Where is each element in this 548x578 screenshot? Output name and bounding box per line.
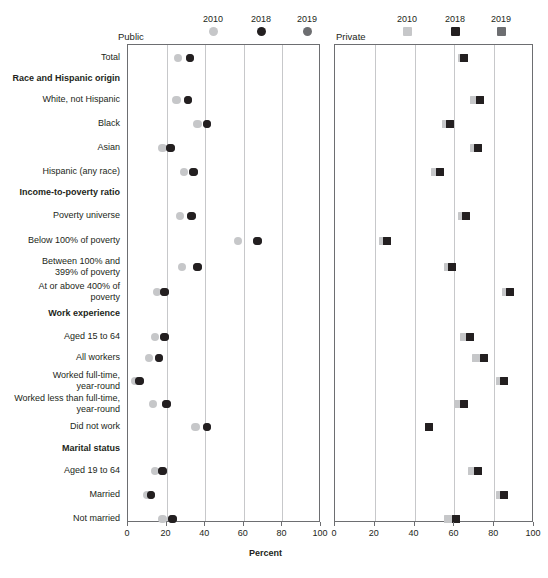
gridline [205, 45, 206, 521]
legend-item-public-2019: 2019 [292, 14, 322, 36]
data-point [444, 515, 452, 523]
data-point [474, 144, 482, 152]
data-point [151, 333, 160, 342]
data-point [193, 263, 202, 272]
gridline [244, 45, 245, 521]
legend-marker-circle-2018-icon [257, 27, 266, 36]
data-point [466, 333, 474, 341]
data-point [172, 96, 181, 105]
data-point [135, 377, 144, 386]
gridline [415, 45, 416, 521]
axis-tick [281, 522, 282, 526]
legend-year-label: 2019 [292, 14, 322, 25]
data-point [460, 54, 468, 62]
row-label: Aged 19 to 64 [0, 465, 120, 476]
data-point [436, 168, 444, 176]
row-label: Hispanic (any race) [0, 166, 120, 177]
axis-tick-label: 80 [480, 528, 506, 538]
data-point [234, 237, 243, 246]
data-point [155, 354, 164, 363]
legend-item-private-2010: 2010 [392, 14, 422, 36]
data-point [500, 377, 508, 385]
legend-year-label: 2018 [440, 14, 470, 25]
plot-panel-private [334, 44, 533, 522]
gridline [454, 45, 455, 521]
row-label: At or above 400% of poverty [0, 281, 120, 302]
axis-tick [493, 522, 494, 526]
axis-tick [334, 522, 335, 526]
axis-tick-label: 20 [361, 528, 387, 538]
data-point [180, 168, 189, 177]
data-point [191, 423, 200, 432]
legend-year-label: 2010 [392, 14, 422, 25]
legend-marker-square-2018-icon [451, 27, 460, 36]
data-point [460, 400, 468, 408]
legend-public: Public 2010 2018 2019 [60, 8, 310, 44]
axis-tick [204, 522, 205, 526]
panel-label-public: Public [118, 31, 144, 42]
data-point [166, 144, 175, 153]
axis-tick [533, 522, 534, 526]
data-point [500, 491, 508, 499]
data-point [506, 288, 514, 296]
legend-item-private-2018: 2018 [440, 14, 470, 36]
legend-item-private-2019: 2019 [486, 14, 516, 36]
axis-tick-label: 0 [114, 528, 140, 538]
data-point [446, 120, 454, 128]
row-group-header: Race and Hispanic origin [0, 73, 120, 84]
panel-label-private: Private [336, 31, 366, 42]
data-point [462, 212, 470, 220]
axis-tick-label: 0 [321, 528, 347, 538]
row-label: Worked less than full-time, year-round [0, 393, 120, 414]
row-group-header: Income-to-poverty ratio [0, 187, 120, 198]
plot-panel-public [127, 44, 320, 522]
legend-year-label: 2019 [486, 14, 516, 25]
legend-marker-circle-2019-icon [303, 27, 312, 36]
data-point [145, 354, 154, 363]
data-point [448, 263, 456, 271]
row-label: Asian [0, 142, 120, 153]
row-label: White, not Hispanic [0, 94, 120, 105]
legend-item-public-2010: 2010 [198, 14, 228, 36]
axis-tick [243, 522, 244, 526]
data-point [480, 354, 488, 362]
chart-root: Public 2010 2018 2019 Private 2010 2018 … [0, 0, 548, 578]
axis-tick-label: 100 [520, 528, 546, 538]
gridline [375, 45, 376, 521]
data-point [168, 515, 177, 524]
data-point [193, 120, 202, 129]
axis-tick [127, 522, 128, 526]
data-point [174, 54, 183, 63]
row-label: Between 100% and 399% of poverty [0, 256, 120, 277]
legend-year-label: 2010 [198, 14, 228, 25]
axis-tick [166, 522, 167, 526]
row-label: All workers [0, 352, 120, 363]
data-point [203, 120, 212, 129]
gridline [167, 45, 168, 521]
row-group-header: Marital status [0, 443, 120, 454]
row-label: Poverty universe [0, 210, 120, 221]
axis-tick-label: 60 [440, 528, 466, 538]
row-label: Total [0, 52, 120, 63]
row-group-header: Work experience [0, 308, 120, 319]
data-point [184, 96, 193, 105]
axis-tick [374, 522, 375, 526]
legend-marker-square-2019-icon [497, 27, 506, 36]
row-label: Aged 15 to 64 [0, 331, 120, 342]
axis-title-percent: Percent [249, 548, 282, 558]
data-point [203, 423, 212, 432]
gridline [282, 45, 283, 521]
data-point [162, 400, 171, 409]
axis-tick [320, 522, 321, 526]
data-point [474, 467, 482, 475]
data-point [476, 96, 484, 104]
data-point [186, 54, 195, 63]
data-point [160, 333, 169, 342]
axis-tick-label: 80 [268, 528, 294, 538]
axis-tick-label: 40 [191, 528, 217, 538]
row-label: Black [0, 118, 120, 129]
data-point [147, 491, 156, 500]
row-label: Married [0, 489, 120, 500]
row-label: Did not work [0, 421, 120, 432]
row-label: Not married [0, 513, 120, 524]
